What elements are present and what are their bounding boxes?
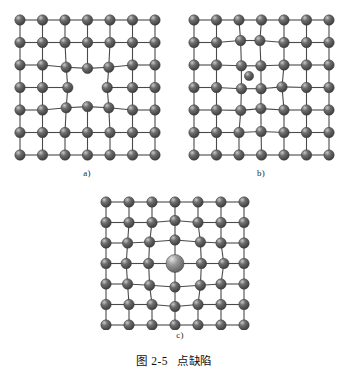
- lattice-atom: [301, 127, 311, 137]
- lattice-atom: [105, 150, 115, 160]
- lattice-atom: [236, 105, 246, 115]
- lattice-atom: [150, 150, 160, 160]
- lattice-atom: [216, 299, 226, 309]
- lattice-atom: [170, 235, 180, 245]
- lattice-atom: [15, 82, 25, 92]
- lattice-atom: [189, 37, 199, 47]
- lattice-atom: [219, 258, 229, 268]
- lattice-atom: [127, 127, 137, 137]
- lattice-atom: [279, 105, 289, 115]
- lattice-atom: [37, 37, 47, 47]
- lattice-atom: [277, 82, 287, 92]
- figure-caption: 图 2-5点缺陷: [0, 352, 348, 368]
- lattice-atom: [234, 15, 244, 25]
- lattice-atom: [127, 37, 137, 47]
- lattice-atom: [60, 150, 70, 160]
- lattice-atom: [234, 127, 244, 137]
- lattice-atom: [150, 60, 160, 70]
- lattice-atom: [279, 127, 289, 137]
- lattice-atom: [124, 217, 134, 227]
- lattice-atom: [189, 15, 199, 25]
- lattice-atom: [150, 105, 160, 115]
- lattice-atom: [216, 197, 226, 207]
- lattice-atom: [211, 15, 221, 25]
- lattice-atom: [101, 238, 111, 248]
- panel-b-label: b): [180, 168, 342, 178]
- lattice-atom: [211, 105, 221, 115]
- panel-c-substitutional: c): [92, 190, 268, 350]
- point-defect-figure: a) b) c) 图 2-5点缺陷: [0, 0, 348, 374]
- lattice-atom: [193, 299, 203, 309]
- lattice-atom: [193, 320, 203, 330]
- lattice-atom: [256, 150, 266, 160]
- lattice-atom: [216, 238, 226, 248]
- lattice-atom: [144, 280, 154, 290]
- lattice-atom: [279, 15, 289, 25]
- lattice-atom: [37, 60, 47, 70]
- lattice-atom: [301, 37, 311, 47]
- lattice-atom: [82, 150, 92, 160]
- lattice-atom: [234, 150, 244, 160]
- interstitial-atom: [244, 71, 253, 80]
- lattice-atom: [143, 258, 153, 268]
- lattice-atom: [124, 299, 134, 309]
- lattice-atom: [239, 217, 249, 227]
- lattice-atom: [216, 217, 226, 227]
- lattice-atom: [324, 105, 334, 115]
- lattice-atom: [104, 62, 114, 72]
- lattice-atom: [189, 60, 199, 70]
- lattice-diagram-interstitial: [180, 6, 342, 166]
- lattice-atom: [239, 279, 249, 289]
- lattice-atom: [150, 15, 160, 25]
- lattice-atom: [105, 15, 115, 25]
- lattice-atom: [239, 197, 249, 207]
- lattice-atom: [102, 82, 112, 92]
- lattice-atom: [236, 61, 246, 71]
- panel-a-label: a): [6, 168, 168, 178]
- lattice-atom: [324, 127, 334, 137]
- lattice-atom: [101, 258, 111, 268]
- panel-c-label: c): [92, 330, 268, 340]
- lattice-atom: [170, 282, 180, 292]
- lattice-atom: [82, 101, 92, 111]
- lattice-atom: [216, 279, 226, 289]
- lattice-atom: [37, 15, 47, 25]
- lattice-atom: [101, 299, 111, 309]
- lattice-atom: [105, 127, 115, 137]
- lattice-atom: [239, 320, 249, 330]
- lattice-atom: [256, 126, 266, 136]
- lattice-atom: [170, 301, 180, 311]
- lattice-atom: [324, 15, 334, 25]
- figure-caption-number: 图 2-5: [136, 355, 168, 367]
- lattice-atom: [150, 37, 160, 47]
- lattice-atom: [122, 238, 132, 248]
- lattice-atom: [37, 82, 47, 92]
- lattice-atom: [127, 105, 137, 115]
- lattice-atom: [279, 37, 289, 47]
- lattice-atom: [124, 197, 134, 207]
- lattice-atom: [121, 258, 131, 268]
- lattice-atom: [63, 82, 73, 92]
- lattice-atom: [15, 127, 25, 137]
- lattice-atom: [170, 197, 180, 207]
- panel-a-vacancy: a): [6, 6, 168, 188]
- lattice-atom: [144, 237, 154, 247]
- lattice-atom: [211, 60, 221, 70]
- lattice-atom: [279, 60, 289, 70]
- lattice-atom: [37, 150, 47, 160]
- lattice-atom: [15, 15, 25, 25]
- lattice-atom: [211, 37, 221, 47]
- lattice-atom: [37, 127, 47, 137]
- lattice-atom: [82, 37, 92, 47]
- lattice-atom: [301, 60, 311, 70]
- lattice-atom: [60, 127, 70, 137]
- lattice-atom: [301, 15, 311, 25]
- lattice-atom: [127, 15, 137, 25]
- lattice-atom: [195, 237, 205, 247]
- lattice-atom: [127, 82, 137, 92]
- lattice-atom: [15, 150, 25, 160]
- lattice-atom: [256, 15, 266, 25]
- lattice-atom: [170, 320, 180, 330]
- lattice-atom: [324, 60, 334, 70]
- lattice-atom: [236, 84, 246, 94]
